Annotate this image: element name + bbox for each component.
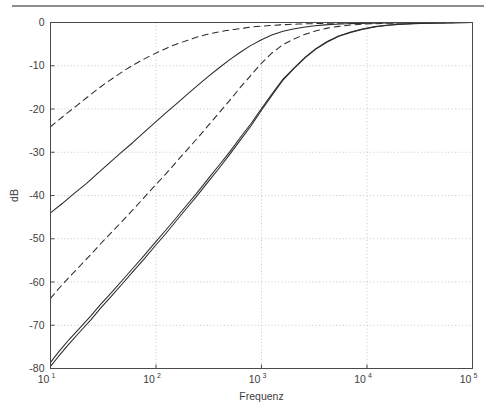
- y-tick-label: -10: [29, 59, 44, 71]
- figure-page: 1011021031041050-10-20-30-40-50-60-70-80…: [0, 0, 494, 411]
- series-line-second-order-solid-steep-overlay: [51, 23, 473, 363]
- y-tick-label: -30: [29, 146, 44, 158]
- x-axis-title: Frequenz: [239, 390, 283, 402]
- x-tick-label: 10: [354, 373, 366, 385]
- y-tick-label: -80: [29, 362, 44, 374]
- x-tick-exponent: 2: [157, 372, 161, 379]
- y-tick-label: -60: [29, 276, 44, 288]
- x-tick-exponent: 5: [474, 372, 478, 379]
- plot-svg: 1011021031041050-10-20-30-40-50-60-70-80…: [0, 0, 494, 411]
- y-axis-title: dB: [8, 189, 20, 202]
- x-tick-label: 10: [143, 373, 155, 385]
- x-tick-exponent: 1: [52, 372, 56, 379]
- y-tick-label: -70: [29, 319, 44, 331]
- x-tick-exponent: 4: [368, 372, 372, 379]
- y-tick-label: -50: [29, 232, 44, 244]
- y-tick-label: 0: [39, 16, 45, 28]
- axis-tick-labels: 1011021031041050-10-20-30-40-50-60-70-80: [29, 16, 477, 384]
- y-tick-label: -40: [29, 189, 44, 201]
- series-line-second-order-solid-shallow: [51, 23, 473, 213]
- x-tick-label: 10: [460, 373, 472, 385]
- x-tick-label: 10: [249, 373, 261, 385]
- x-tick-exponent: 3: [263, 372, 267, 379]
- grid-lines: [51, 23, 473, 369]
- series-line-third-order-dashed-steep: [51, 23, 473, 299]
- bode-magnitude-plot: 1011021031041050-10-20-30-40-50-60-70-80…: [0, 0, 494, 411]
- y-tick-label: -20: [29, 103, 44, 115]
- x-tick-label: 10: [38, 373, 50, 385]
- axis-titles: FrequenzdB: [8, 189, 284, 401]
